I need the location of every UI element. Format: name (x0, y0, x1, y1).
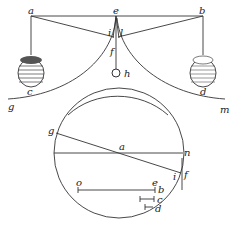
label-b: b (199, 5, 205, 16)
label-f: f (109, 46, 116, 57)
weight-c (18, 56, 44, 87)
label-a: a (28, 5, 34, 16)
label-d: d (200, 86, 206, 97)
label-i2: i (173, 171, 176, 182)
ball-h (112, 69, 120, 77)
label-n: n (184, 147, 190, 158)
bottom-figure: g a n i f o e b c d (48, 88, 190, 218)
label-g2: g (48, 125, 54, 136)
label-h: h (124, 68, 130, 79)
string-a-vertex (31, 16, 114, 37)
label-g: g (8, 101, 14, 112)
label-l: l (120, 27, 123, 38)
label-e: e (113, 5, 119, 16)
weight-d (190, 56, 216, 87)
label-a2: a (119, 141, 125, 152)
label-d2: d (155, 203, 161, 214)
diagram: a e b i l f h c d g m g a n i f o e b c … (0, 0, 236, 225)
label-o: o (76, 177, 82, 188)
label-i: i (108, 27, 111, 38)
string-b-vertex (118, 16, 203, 37)
label-f2: f (183, 169, 190, 180)
label-c: c (27, 86, 33, 97)
label-m: m (220, 104, 229, 115)
top-figure: a e b i l f h c d g m (8, 5, 229, 115)
